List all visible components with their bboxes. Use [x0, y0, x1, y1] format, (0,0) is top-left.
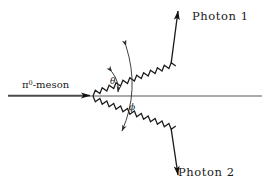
angle-theta-label: θ: [110, 76, 116, 86]
photon-1-label: Photon 1: [192, 9, 249, 23]
feynman-diagram: π0-meson θ ϕ Photon 1 Photon 2: [0, 0, 265, 183]
diagram-canvas: π0-meson θ ϕ Photon 1 Photon 2: [0, 0, 265, 183]
angle-phi-label: ϕ: [129, 102, 135, 112]
diagram-background: [0, 0, 265, 183]
photon-2-label: Photon 2: [178, 165, 235, 179]
meson-suffix: -meson: [33, 79, 70, 90]
